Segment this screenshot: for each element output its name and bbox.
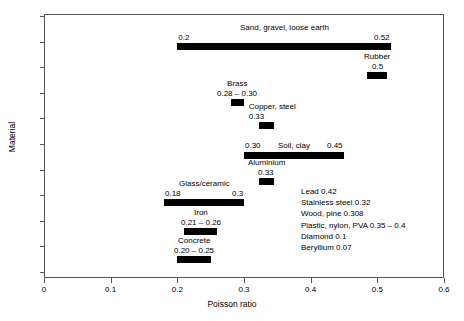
x-tick: [377, 278, 378, 283]
bar-brass: [231, 99, 244, 106]
y-tick: [40, 118, 45, 119]
x-tick: [444, 278, 445, 283]
bar-low-value: 0.2: [178, 33, 189, 42]
y-axis-label: Material: [7, 107, 17, 167]
x-tick: [44, 278, 45, 283]
y-tick: [40, 195, 45, 196]
bar-label: Brass: [227, 79, 247, 88]
bar-high-value: 0.3: [232, 189, 243, 198]
bar-copper-steel: [259, 122, 274, 129]
extra-value-item: Lead 0.42: [301, 186, 405, 197]
bar-sand-gravel-loose-earth: [177, 43, 390, 50]
extra-value-item: Wood, pine 0.308: [301, 208, 405, 219]
y-tick: [40, 170, 45, 171]
y-tick: [40, 93, 45, 94]
x-tick-label: 0.4: [296, 285, 326, 295]
x-tick-label: 0.6: [429, 285, 459, 295]
y-tick: [40, 67, 45, 68]
bar-range-value: 0.20 – 0.25: [174, 246, 214, 255]
bar-range-value: 0.5: [372, 62, 383, 71]
y-tick: [40, 144, 45, 145]
bar-label: Copper, steel: [249, 102, 296, 111]
bar-label: Soil, clay: [278, 141, 310, 150]
bar-high-value: 0.52: [374, 33, 390, 42]
bar-range-value: 0.28 – 0.30: [217, 89, 257, 98]
y-tick: [40, 272, 45, 273]
bar-label: Iron: [194, 208, 208, 217]
bar-label: Concrete: [178, 236, 210, 245]
x-tick: [177, 278, 178, 283]
x-tick-label: 0: [29, 285, 59, 295]
x-tick-label: 0.2: [162, 285, 192, 295]
bar-label: Aluminium: [248, 158, 285, 167]
bar-high-value: 0.45: [327, 141, 343, 150]
y-tick: [40, 42, 45, 43]
extra-value-item: Beryllium 0.07: [301, 242, 405, 253]
bar-label: Rubber: [364, 52, 390, 61]
x-tick-label: 0.1: [96, 285, 126, 295]
extra-value-item: Diamond 0.1: [301, 231, 405, 242]
y-tick: [40, 246, 45, 247]
extra-value-item: Stainless steel 0.32: [301, 197, 405, 208]
extra-value-item: Plastic, nylon, PVA 0.35 – 0.4: [301, 220, 405, 231]
bar-low-value: 0.18: [165, 189, 181, 198]
x-axis-label: Poisson ratio: [0, 299, 464, 309]
bar-aluminium: [259, 178, 274, 185]
y-tick: [40, 16, 45, 17]
poisson-ratio-chart: 00.10.20.30.40.50.6 Sand, gravel, loose …: [0, 0, 464, 321]
x-tick: [311, 278, 312, 283]
bar-concrete: [177, 256, 210, 263]
bar-glass-ceramic: [164, 199, 244, 206]
bar-range-value: 0.33: [258, 168, 274, 177]
bar-low-value: 0.30: [245, 141, 261, 150]
bar-iron: [184, 228, 217, 235]
extra-values-list: Lead 0.42Stainless steel 0.32Wood, pine …: [301, 186, 405, 253]
x-tick: [111, 278, 112, 283]
bar-range-value: 0.33: [249, 112, 265, 121]
x-tick-label: 0.3: [229, 285, 259, 295]
x-tick-label: 0.5: [362, 285, 392, 295]
x-tick: [244, 278, 245, 283]
y-tick: [40, 221, 45, 222]
bar-label: Sand, gravel, loose earth: [240, 23, 329, 32]
bar-range-value: 0.21 – 0.26: [181, 218, 221, 227]
bar-rubber: [367, 72, 387, 79]
bar-label: Glass/ceramic: [179, 179, 230, 188]
